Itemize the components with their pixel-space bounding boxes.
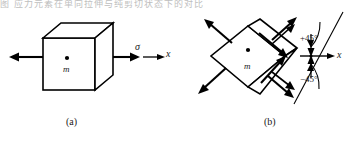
x-axis-arrow-a: [143, 54, 165, 60]
rotated-center-dot: [246, 48, 250, 52]
panel-a-axis-label: x: [166, 48, 170, 59]
panel-b-axis-label: x: [337, 49, 341, 60]
x-axis-arrow-b: [300, 53, 335, 59]
cube-center-dot: [65, 56, 69, 60]
panel-b-caption: (b): [264, 116, 276, 127]
tension-arrow-left: [9, 53, 43, 62]
figure-container: 图 应力元素在单向拉伸与纯剪切状态下的对比: [0, 0, 351, 142]
panel-b-artwork: [198, 12, 343, 104]
corner-arrow-bottom-left: [198, 68, 226, 94]
panel-a-artwork: [9, 23, 165, 90]
panel-a-body-label: m: [63, 64, 70, 74]
panel-a-caption: (a): [66, 116, 77, 127]
figure-artwork: [0, 0, 351, 142]
corner-arrow-top-left: [204, 19, 232, 43]
reference-line-45: [294, 12, 343, 104]
angle-label-positive: +45°: [300, 33, 318, 43]
panel-b-body-label: m: [244, 61, 251, 71]
angle-label-negative: −45°: [300, 74, 318, 84]
corner-arrow-top-right: [272, 17, 297, 40]
tension-arrow-right: [113, 53, 140, 62]
panel-a-stress-label: σ: [135, 41, 140, 52]
